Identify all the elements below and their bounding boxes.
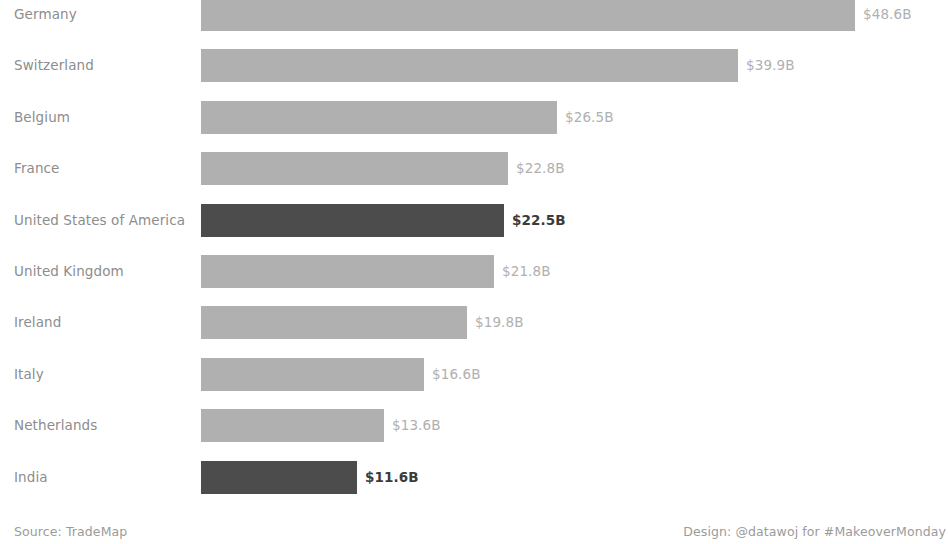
bar-row: United Kingdom$21.8B: [0, 255, 948, 288]
bar-value-label: $22.5B: [512, 204, 566, 237]
bar[interactable]: [201, 49, 738, 82]
category-label: Belgium: [14, 101, 70, 134]
category-label: Netherlands: [14, 409, 97, 442]
category-label: Italy: [14, 358, 44, 391]
bar-track: $48.6B: [201, 0, 948, 31]
bar-value-label: $22.8B: [516, 152, 565, 185]
bar-value-label: $39.9B: [746, 49, 795, 82]
bar-row: India$11.6B: [0, 461, 948, 494]
bar[interactable]: [201, 409, 384, 442]
bar-chart: Germany$48.6BSwitzerland$39.9BBelgium$26…: [0, 0, 948, 510]
bar-row: United States of America$22.5B: [0, 204, 948, 237]
bar-row: Switzerland$39.9B: [0, 49, 948, 82]
category-label: Switzerland: [14, 49, 94, 82]
bar-track: $21.8B: [201, 255, 948, 288]
bar-track: $39.9B: [201, 49, 948, 82]
bar-value-label: $16.6B: [432, 358, 481, 391]
category-label: Ireland: [14, 306, 61, 339]
category-label: United Kingdom: [14, 255, 124, 288]
bar-track: $22.5B: [201, 204, 948, 237]
bar[interactable]: [201, 152, 508, 185]
category-label: India: [14, 461, 48, 494]
bar-row: Belgium$26.5B: [0, 101, 948, 134]
bar-value-label: $48.6B: [863, 0, 912, 31]
source-note: Source: TradeMap: [14, 524, 127, 539]
bar-value-label: $26.5B: [565, 101, 614, 134]
design-credit: Design: @datawoj for #MakeoverMonday: [683, 524, 946, 539]
bar[interactable]: [201, 255, 494, 288]
bar-track: $19.8B: [201, 306, 948, 339]
category-label: France: [14, 152, 60, 185]
bar-row: Ireland$19.8B: [0, 306, 948, 339]
bar-value-label: $13.6B: [392, 409, 441, 442]
bar-row: Netherlands$13.6B: [0, 409, 948, 442]
bar-value-label: $21.8B: [502, 255, 551, 288]
bar-track: $22.8B: [201, 152, 948, 185]
bar-track: $11.6B: [201, 461, 948, 494]
chart-footer: Source: TradeMap Design: @datawoj for #M…: [0, 510, 948, 544]
bar-value-label: $19.8B: [475, 306, 524, 339]
bar-row: Germany$48.6B: [0, 0, 948, 31]
bar-highlighted[interactable]: [201, 204, 504, 237]
bar[interactable]: [201, 0, 855, 31]
bar-row: Italy$16.6B: [0, 358, 948, 391]
bar-highlighted[interactable]: [201, 461, 357, 494]
bar-track: $16.6B: [201, 358, 948, 391]
bar-track: $26.5B: [201, 101, 948, 134]
bar[interactable]: [201, 101, 557, 134]
category-label: Germany: [14, 0, 77, 31]
bar-track: $13.6B: [201, 409, 948, 442]
bar[interactable]: [201, 358, 424, 391]
bar[interactable]: [201, 306, 467, 339]
bar-row: France$22.8B: [0, 152, 948, 185]
category-label: United States of America: [14, 204, 185, 237]
bar-value-label: $11.6B: [365, 461, 419, 494]
